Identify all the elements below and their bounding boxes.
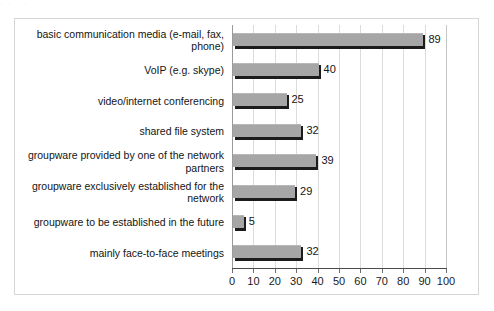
bar-chart-figure: 0102030405060708090100 basic communicati… (14, 18, 479, 295)
category-label: shared file system (15, 116, 232, 146)
bar-shadow (235, 167, 318, 170)
bar-value-label: 32 (306, 123, 318, 138)
bar[interactable] (233, 245, 301, 258)
category-label: basic communication media (e-mail, fax, … (15, 25, 232, 55)
tick-80 (403, 269, 404, 273)
tick-label-100: 100 (431, 275, 461, 288)
gridline-10 (253, 25, 254, 268)
tick-30 (296, 269, 297, 273)
bar[interactable] (233, 124, 301, 137)
bar-value-label: 29 (300, 184, 312, 199)
bar[interactable] (233, 185, 295, 198)
gridline-0 (232, 25, 233, 268)
category-label: groupware to be established in the futur… (15, 207, 232, 237)
tick-90 (425, 269, 426, 273)
bar-group: 32 (233, 245, 301, 258)
bar-group: 25 (233, 93, 287, 106)
gridline-90 (425, 25, 426, 268)
gridline-60 (360, 25, 361, 268)
bar-value-label: 5 (249, 214, 255, 229)
bar-shadow (235, 46, 425, 49)
tick-40 (318, 269, 319, 273)
gridline-30 (296, 25, 297, 268)
bar-value-label: 25 (292, 92, 304, 107)
bar-shadow (235, 137, 303, 140)
bar-group: 39 (233, 154, 316, 167)
category-label: video/internet conferencing (15, 86, 232, 116)
category-label: mainly face-to-face meetings (15, 238, 232, 268)
bar-value-label: 32 (306, 244, 318, 259)
bar-value-label: 40 (324, 62, 336, 77)
bar-value-label: 39 (321, 153, 333, 168)
gridline-100 (446, 25, 447, 268)
bar-group: 5 (233, 215, 244, 228)
gridline-40 (318, 25, 319, 268)
bar[interactable] (233, 63, 319, 76)
gridline-20 (275, 25, 276, 268)
bar-group: 89 (233, 33, 423, 46)
bar-shadow (235, 106, 289, 109)
bar-shadow (235, 258, 303, 261)
bar-value-label: 89 (428, 32, 440, 47)
bar-group: 40 (233, 63, 319, 76)
bar-group: 29 (233, 185, 295, 198)
gridline-70 (382, 25, 383, 268)
tick-20 (275, 269, 276, 273)
tick-50 (339, 269, 340, 273)
gridline-80 (403, 25, 404, 268)
tick-10 (253, 269, 254, 273)
bar[interactable] (233, 154, 316, 167)
category-label: groupware provided by one of the network… (15, 147, 232, 177)
bar[interactable] (233, 33, 423, 46)
gridline-50 (339, 25, 340, 268)
scan-artifact-strip: ·· · · · · (0, 0, 494, 12)
tick-0 (232, 269, 233, 273)
bar-group: 32 (233, 124, 301, 137)
bar-shadow (235, 76, 321, 79)
bar[interactable] (233, 215, 244, 228)
bar-shadow (235, 198, 297, 201)
bar[interactable] (233, 93, 287, 106)
category-label: VoIP (e.g. skype) (15, 55, 232, 85)
tick-60 (360, 269, 361, 273)
plot-area (232, 25, 446, 268)
category-label: groupware exclusively established for th… (15, 177, 232, 207)
tick-100 (446, 269, 447, 273)
tick-70 (382, 269, 383, 273)
